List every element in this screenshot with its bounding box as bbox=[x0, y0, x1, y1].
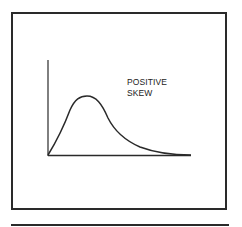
distribution-curve bbox=[48, 96, 191, 155]
skew-label-line-1: POSITIVE bbox=[127, 77, 167, 88]
skew-label: POSITIVE SKEW bbox=[127, 77, 167, 99]
bottom-separator bbox=[11, 224, 229, 226]
skew-label-line-2: SKEW bbox=[127, 88, 167, 99]
skew-plot bbox=[0, 0, 242, 227]
